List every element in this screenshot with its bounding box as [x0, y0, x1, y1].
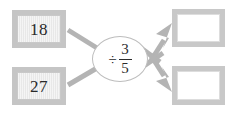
output-box-2[interactable] [172, 66, 225, 105]
operator-oval: ÷ 3 5 [92, 36, 148, 82]
operator-fraction: 3 5 [119, 42, 132, 77]
function-machine-diagram: 18 27 ÷ 3 5 [0, 0, 238, 115]
output-box-1-inner[interactable] [177, 14, 220, 42]
input-box-1: 18 [12, 10, 66, 48]
fraction-numerator: 3 [120, 42, 130, 58]
fraction-denominator: 5 [120, 61, 130, 77]
output-box-1[interactable] [172, 9, 225, 47]
arrow-input-2-to-operator [68, 68, 97, 85]
input-box-1-inner: 18 [17, 15, 61, 43]
arrow-input-1-to-operator [68, 30, 97, 48]
input-value-2: 27 [30, 78, 48, 95]
input-box-2: 27 [12, 67, 66, 105]
input-box-2-inner: 27 [17, 72, 61, 100]
input-value-1: 18 [30, 21, 48, 38]
output-box-2-inner[interactable] [177, 71, 220, 100]
division-sign-icon: ÷ [108, 53, 116, 68]
